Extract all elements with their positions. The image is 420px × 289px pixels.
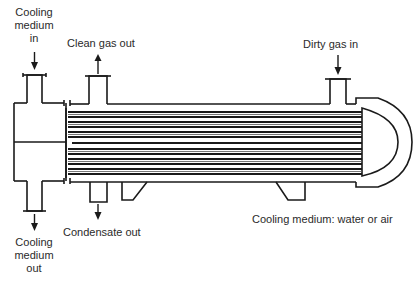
label-line: in xyxy=(5,32,63,45)
flow-arrows xyxy=(31,52,342,231)
label-line: out xyxy=(5,262,63,275)
label-line: medium xyxy=(5,19,63,32)
label-line: Cooling xyxy=(5,6,63,19)
cooling-medium-in-nozzle xyxy=(23,73,46,103)
arrow-up-icon xyxy=(95,54,102,74)
end-cap xyxy=(356,98,412,187)
arrow-down-icon xyxy=(31,214,38,231)
saddle-support-right xyxy=(276,182,305,200)
clean-gas-out-nozzle xyxy=(85,76,111,104)
label-condensate-out: Condensate out xyxy=(63,226,141,239)
channel-head xyxy=(14,100,70,184)
arrow-down-icon xyxy=(31,52,38,70)
label-clean-gas-out: Clean gas out xyxy=(67,37,135,50)
label-dirty-gas-in: Dirty gas in xyxy=(303,38,358,51)
arrow-down-icon xyxy=(95,204,102,220)
label-cooling-medium-note: Cooling medium: water or air xyxy=(252,213,393,226)
cooling-medium-out-nozzle xyxy=(23,181,46,211)
label-cooling-medium-out: Cooling medium out xyxy=(5,236,63,275)
condensate-out-sump xyxy=(90,182,107,202)
label-line: medium xyxy=(5,249,63,262)
dirty-gas-in-nozzle xyxy=(325,79,351,104)
arrow-down-icon xyxy=(335,55,342,75)
saddle-support-left xyxy=(122,182,147,200)
label-cooling-medium-in: Cooling medium in xyxy=(5,6,63,45)
label-line: Cooling xyxy=(5,236,63,249)
tube-bundle xyxy=(66,108,362,178)
